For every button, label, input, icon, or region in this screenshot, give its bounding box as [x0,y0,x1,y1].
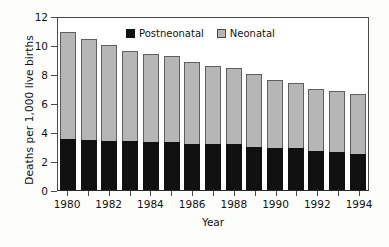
x-tick-mark [317,191,318,196]
x-tick-mark [88,191,89,196]
bar-segment-neonatal [329,91,345,152]
x-tick-mark [67,191,68,196]
bar-1983 [122,51,138,190]
chart-legend: Postneonatal Neonatal [126,28,275,39]
bar-segment-neonatal [60,32,76,139]
bar-segment-postneonatal [164,142,180,190]
bar-1987 [205,66,221,190]
x-tick-label: 1984 [130,198,170,210]
bar-segment-neonatal [101,45,117,141]
bar-segment-neonatal [122,51,138,141]
bar-1994 [350,94,366,190]
x-tick-label: 1980 [47,198,87,210]
bar-segment-postneonatal [184,144,200,190]
bar-segment-postneonatal [81,140,97,190]
x-tick-mark [171,191,172,196]
bar-segment-postneonatal [329,152,345,190]
bar-segment-postneonatal [226,144,242,190]
x-tick-mark [276,191,277,196]
bar-group [58,18,368,190]
bar-1989 [246,74,262,190]
plot-area [57,17,369,191]
bar-segment-postneonatal [288,148,304,190]
bar-segment-neonatal [205,66,221,143]
x-tick-label: 1988 [214,198,254,210]
bar-segment-neonatal [288,83,304,147]
bar-segment-neonatal [246,74,262,147]
x-tick-label: 1990 [256,198,296,210]
bar-segment-neonatal [267,80,283,148]
x-tick-label: 1986 [172,198,212,210]
bar-segment-neonatal [143,54,159,142]
x-tick-mark [213,191,214,196]
bar-1982 [101,45,117,190]
bar-segment-postneonatal [143,142,159,190]
x-tick-mark [234,191,235,196]
bar-segment-neonatal [308,89,324,151]
x-tick-mark [130,191,131,196]
bar-segment-postneonatal [60,139,76,190]
x-tick-mark [255,191,256,196]
x-tick-label: 1994 [339,198,379,210]
x-tick-label: 1992 [297,198,337,210]
bar-1988 [226,68,242,190]
bar-segment-postneonatal [101,141,117,190]
bar-segment-neonatal [226,68,242,144]
bar-segment-neonatal [164,56,180,142]
x-tick-mark [109,191,110,196]
bar-segment-postneonatal [205,144,221,190]
bar-1991 [288,83,304,190]
y-tick-label: 10 [20,40,48,52]
y-tick-label: 2 [20,156,48,168]
y-tick-label: 8 [20,69,48,81]
bar-segment-neonatal [184,62,200,143]
bar-1992 [308,89,324,190]
bar-segment-neonatal [350,94,366,154]
bar-1981 [81,39,97,190]
bar-segment-postneonatal [308,151,324,190]
legend-item-postneonatal: Postneonatal [126,28,204,39]
legend-label-postneonatal: Postneonatal [139,28,204,39]
x-tick-mark [296,191,297,196]
y-tick-label: 12 [20,11,48,23]
legend-swatch-neonatal-icon [217,29,226,38]
bar-segment-postneonatal [267,148,283,190]
bar-1986 [184,62,200,190]
x-tick-mark [192,191,193,196]
y-tick-label: 4 [20,127,48,139]
x-axis-title: Year [57,216,369,228]
x-tick-mark [338,191,339,196]
infant-mortality-stacked-bar-chart: Deaths per 1,000 live births 024681012 1… [0,0,389,247]
y-tick-label: 6 [20,98,48,110]
bar-1990 [267,80,283,190]
y-tick-label: 0 [20,185,48,197]
legend-label-neonatal: Neonatal [230,28,275,39]
x-tick-label: 1982 [89,198,129,210]
legend-item-neonatal: Neonatal [217,28,275,39]
bar-1993 [329,91,345,190]
legend-swatch-postneonatal-icon [126,29,135,38]
bar-1984 [143,54,159,190]
bar-segment-postneonatal [350,154,366,190]
x-tick-mark [150,191,151,196]
y-tick-mark [51,191,57,192]
bar-segment-postneonatal [246,147,262,191]
bar-segment-neonatal [81,39,97,139]
x-tick-mark [359,191,360,196]
bar-segment-postneonatal [122,141,138,190]
bar-1985 [164,56,180,190]
bar-1980 [60,32,76,190]
